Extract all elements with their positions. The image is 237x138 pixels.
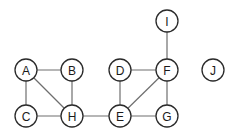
- node-label: E: [116, 110, 124, 124]
- node-F: F: [156, 59, 178, 81]
- node-label: A: [22, 64, 30, 78]
- node-C: C: [15, 105, 37, 127]
- edges: [26, 21, 167, 116]
- node-label: B: [68, 64, 76, 78]
- node-label: G: [162, 110, 171, 124]
- node-H: H: [61, 105, 83, 127]
- node-label: H: [68, 110, 77, 124]
- node-label: F: [163, 64, 170, 78]
- node-J: J: [202, 59, 224, 81]
- nodes: ABCHDFIEGJ: [15, 10, 224, 127]
- node-G: G: [156, 105, 178, 127]
- node-E: E: [109, 105, 131, 127]
- node-I: I: [156, 10, 178, 32]
- node-B: B: [61, 59, 83, 81]
- node-label: I: [165, 15, 168, 29]
- node-A: A: [15, 59, 37, 81]
- node-D: D: [109, 59, 131, 81]
- graph-diagram: ABCHDFIEGJ: [0, 0, 237, 138]
- node-label: D: [116, 64, 125, 78]
- node-label: C: [22, 110, 31, 124]
- node-label: J: [210, 64, 216, 78]
